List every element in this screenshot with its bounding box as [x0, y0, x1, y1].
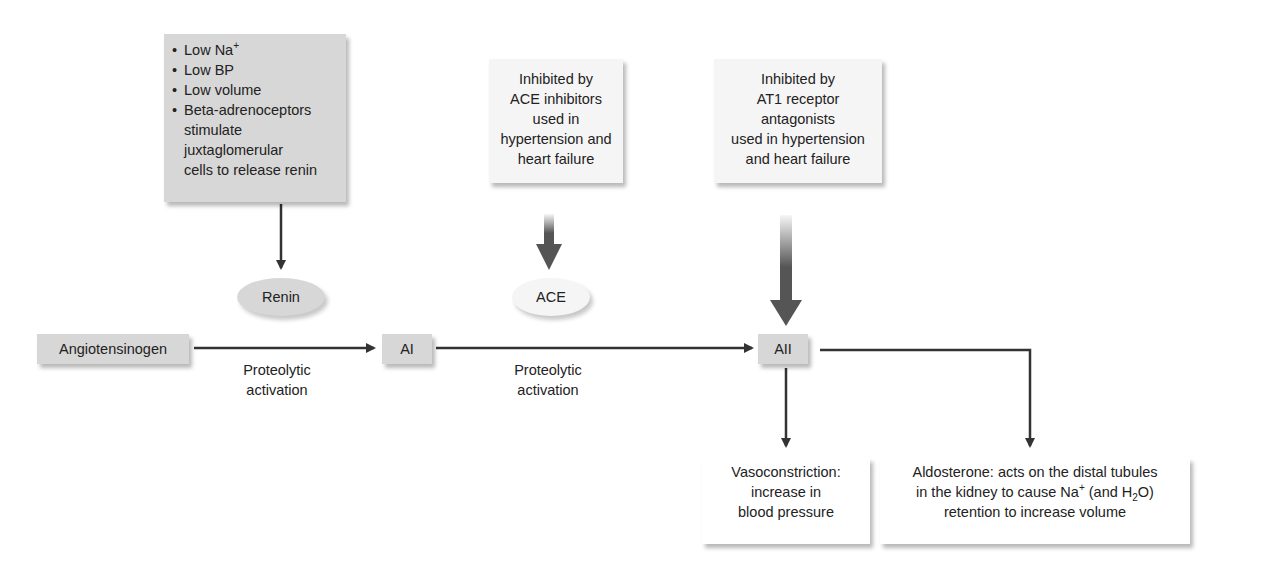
step1-proteolytic-activation-label: Proteolytic activation — [222, 360, 332, 400]
angiotensinogen-label: Angiotensinogen — [59, 341, 167, 357]
stimuli-list: Low Na+ Low BP Low volume Beta-adrenocep… — [172, 40, 338, 180]
ace-box-line-5: heart failure — [493, 149, 619, 169]
step2-label-line-1: Proteolytic — [493, 360, 603, 380]
ace-box-line-3: used in — [493, 109, 619, 129]
vasoconstriction-box: Vasoconstriction: increase in blood pres… — [702, 458, 870, 544]
ace-box-line-2: ACE inhibitors — [493, 89, 619, 109]
ace-label: ACE — [536, 289, 566, 305]
step2-proteolytic-activation-label: Proteolytic activation — [493, 360, 603, 400]
at1-antagonist-box: Inhibited by AT1 receptor antagonists us… — [714, 59, 882, 183]
at1-box-line-5: and heart failure — [718, 149, 878, 169]
step1-label-line-1: Proteolytic — [222, 360, 332, 380]
aldosterone-box: Aldosterone: acts on the distal tubules … — [880, 458, 1190, 544]
ai-box: AI — [382, 334, 432, 364]
stimulus-low-sodium: Low Na+ — [172, 40, 338, 60]
ai-label: AI — [400, 341, 414, 357]
aii-label: AII — [774, 341, 792, 357]
renin-label: Renin — [262, 289, 300, 305]
step2-label-line-2: activation — [493, 380, 603, 400]
ace-box-line-4: hypertension and — [493, 129, 619, 149]
vaso-line-3: blood pressure — [706, 502, 866, 522]
aldo-line-1: Aldosterone: acts on the distal tubules — [884, 462, 1186, 482]
at1-inhibition-arrow-shaft — [780, 215, 792, 302]
aldo-line-3: retention to increase volume — [884, 502, 1186, 522]
ace-enzyme: ACE — [512, 278, 590, 316]
aii-box: AII — [758, 334, 808, 364]
at1-inhibition-arrowhead — [770, 300, 802, 326]
ace-inhibition-arrowhead — [536, 244, 562, 270]
renin-stimuli-box: Low Na+ Low BP Low volume Beta-adrenocep… — [164, 34, 346, 202]
at1-box-line-4: used in hypertension — [718, 129, 878, 149]
angiotensinogen-box: Angiotensinogen — [37, 334, 189, 364]
stimulus-beta-adrenoceptors: Beta-adrenoceptors — [172, 100, 338, 120]
at1-box-line-3: antagonists — [718, 109, 878, 129]
vaso-line-2: increase in — [706, 482, 866, 502]
vaso-line-1: Vasoconstriction: — [706, 462, 866, 482]
stimulus-continuation-2: cells to release renin — [172, 160, 338, 180]
arrow-aii-to-aldosterone — [820, 350, 1030, 446]
aldo-line-2: in the kidney to cause Na+ (and H2O) — [884, 482, 1186, 502]
at1-box-line-2: AT1 receptor — [718, 89, 878, 109]
renin-enzyme: Renin — [237, 278, 325, 316]
at1-box-line-1: Inhibited by — [718, 69, 878, 89]
stimulus-low-volume: Low volume — [172, 80, 338, 100]
stimulus-continuation-1: stimulate juxtaglomerular — [172, 120, 338, 160]
ace-inhibition-arrow-shaft — [544, 214, 554, 246]
ace-box-line-1: Inhibited by — [493, 69, 619, 89]
ace-inhibitor-box: Inhibited by ACE inhibitors used in hype… — [489, 59, 623, 183]
stimulus-low-bp: Low BP — [172, 60, 338, 80]
step1-label-line-2: activation — [222, 380, 332, 400]
